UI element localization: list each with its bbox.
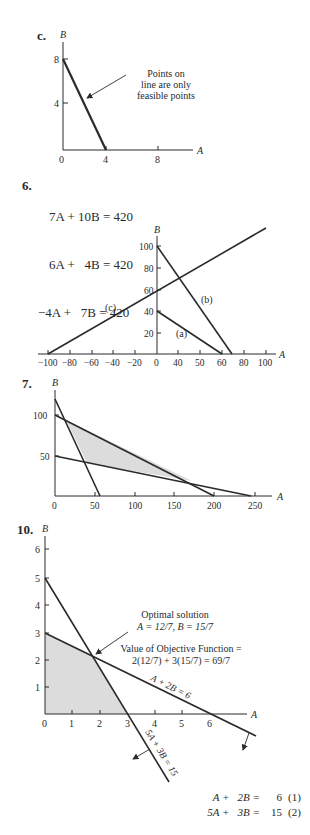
constraint-line (63, 59, 106, 150)
svg-text:5: 5 (35, 573, 40, 584)
svg-text:1: 1 (35, 682, 40, 693)
figures-canvas: B A 8 4 0 4 8 B A 10080 6040 20 (0, 0, 310, 835)
svg-text:100: 100 (128, 501, 143, 511)
problem-10-label: 10. (17, 522, 33, 538)
svg-text:60: 60 (217, 358, 227, 368)
annotation-line: Optimal solution (130, 609, 220, 621)
svg-text:8: 8 (54, 54, 59, 65)
svg-text:B: B (52, 377, 58, 388)
equation-rhs: 15 (260, 805, 282, 820)
svg-text:B: B (42, 523, 48, 534)
svg-text:A: A (250, 709, 258, 720)
svg-text:0: 0 (52, 501, 57, 511)
svg-text:−100: −100 (38, 358, 58, 368)
svg-text:A: A (276, 491, 284, 502)
svg-text:50: 50 (90, 501, 100, 511)
problem-6-label: 6. (22, 178, 32, 194)
problem-6-equations: 7A + 10B = 420 6A + 4B = 420 −4A + 7B = … (38, 177, 133, 337)
svg-text:250: 250 (248, 501, 263, 511)
svg-text:100: 100 (258, 358, 273, 368)
svg-text:0: 0 (154, 358, 159, 368)
objective-value-annotation: Value of Objective Function = 2(12/7) + … (118, 643, 244, 667)
svg-text:1: 1 (69, 718, 74, 729)
svg-text:6: 6 (35, 544, 40, 555)
annotation-line: 2(12/7) + 3(15/7) = 69/7 (118, 655, 244, 667)
svg-text:4: 4 (54, 98, 59, 109)
annotation-arrow (87, 75, 126, 98)
svg-text:−80: −80 (62, 358, 77, 368)
svg-text:A: A (278, 349, 286, 360)
equation-lhs: A + 2B = (190, 790, 260, 805)
svg-text:50: 50 (40, 452, 50, 462)
svg-text:4: 4 (103, 154, 108, 165)
equation-tag: (2) (288, 805, 301, 820)
svg-text:0: 0 (59, 154, 64, 165)
svg-text:100: 100 (139, 242, 154, 252)
svg-text:−20: −20 (127, 358, 142, 368)
svg-text:6: 6 (207, 718, 212, 729)
direction-arrow-1 (243, 733, 249, 750)
svg-text:20: 20 (144, 329, 154, 339)
direction-arrow-2 (133, 749, 150, 759)
annotation-line: line are only (130, 79, 202, 90)
equation-tag: (1) (288, 790, 301, 805)
problem-7-label: 7. (22, 376, 32, 392)
svg-text:50: 50 (195, 358, 205, 368)
chart-c-annotation: Points on line are only feasible points (130, 68, 202, 101)
chart-7: B A 100 50 050 100150 200250 (33, 377, 284, 511)
svg-text:8: 8 (155, 154, 160, 165)
line-label-a: (a) (176, 328, 187, 339)
annotation-line: Points on (130, 68, 202, 79)
equation-row: A + 2B = 6 (1) (190, 790, 301, 805)
problem-10-equations: A + 2B = 6 (1) 5A + 3B = 15 (2) (190, 790, 301, 820)
svg-text:A: A (196, 145, 204, 156)
svg-text:3: 3 (35, 628, 40, 639)
line-b (157, 246, 232, 354)
equation: 6A + 4B = 420 (38, 257, 133, 273)
equation-lhs: 5A + 3B = (190, 805, 260, 820)
line-a (157, 311, 222, 354)
svg-text:−60: −60 (84, 358, 99, 368)
line-3 (55, 456, 251, 496)
svg-text:150: 150 (167, 501, 182, 511)
svg-text:100: 100 (33, 411, 48, 421)
svg-text:B: B (154, 224, 160, 235)
svg-text:200: 200 (207, 501, 222, 511)
svg-text:2: 2 (35, 655, 40, 666)
svg-text:80: 80 (239, 358, 249, 368)
equation-rhs: 6 (260, 790, 282, 805)
svg-text:0: 0 (42, 718, 47, 729)
equation: 7A + 10B = 420 (38, 209, 133, 225)
svg-text:80: 80 (144, 264, 154, 274)
annotation-line: A = 12/7, B = 15/7 (130, 621, 220, 633)
annotation-line: feasible points (130, 90, 202, 101)
line-label-b: (b) (201, 294, 213, 305)
svg-text:B: B (60, 29, 66, 40)
svg-text:5: 5 (179, 718, 184, 729)
svg-text:40: 40 (173, 358, 183, 368)
equation: −4A + 7B = 420 (38, 305, 133, 321)
svg-text:40: 40 (144, 307, 154, 317)
annotation-line: Value of Objective Function = (118, 643, 244, 655)
svg-text:3: 3 (125, 718, 130, 729)
optimal-solution-annotation: Optimal solution A = 12/7, B = 15/7 (130, 609, 220, 633)
svg-text:4: 4 (152, 718, 157, 729)
line-label-c: (c) (105, 302, 116, 313)
equation-row: 5A + 3B = 15 (2) (190, 805, 301, 820)
svg-text:−40: −40 (105, 358, 120, 368)
svg-text:2: 2 (97, 718, 102, 729)
svg-text:4: 4 (35, 600, 40, 611)
